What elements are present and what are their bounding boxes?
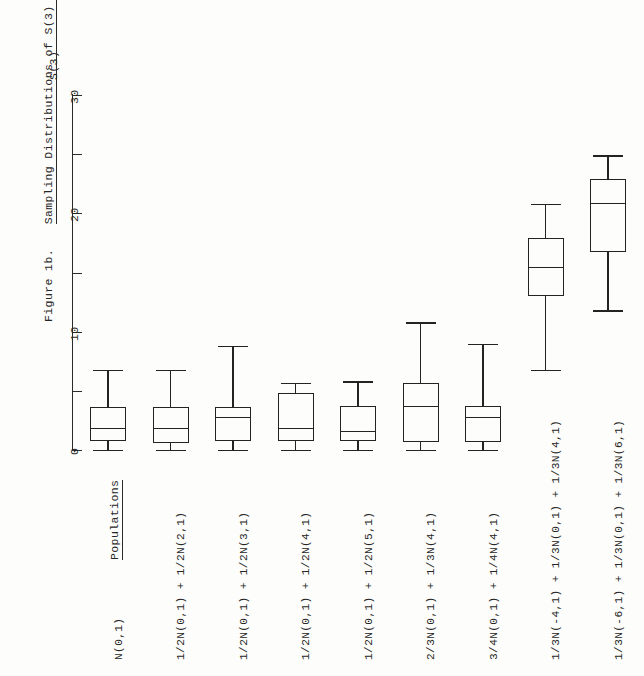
median-line <box>153 428 189 429</box>
boxplot-category-label: 3/4N(0,1) + 1/4N(4,1) <box>488 512 500 660</box>
whisker-lower-line <box>607 252 608 310</box>
whisker-upper-cap <box>593 155 623 156</box>
whisker-upper-cap <box>156 370 186 371</box>
boxplot-category-label: 1/3N(-4,1) + 1/3N(0,1) + 1/3N(4,1) <box>550 420 562 660</box>
box-iqr <box>278 393 314 440</box>
whisker-lower-line <box>357 441 358 450</box>
median-line <box>215 417 251 418</box>
whisker-upper-cap <box>343 381 373 382</box>
boxplot-area: N(0,1)1/2N(0,1) + 1/2N(2,1)1/2N(0,1) + 1… <box>0 0 644 676</box>
boxplot-category-label: 1/3N(-6,1) + 1/3N(0,1) + 1/3N(6,1) <box>613 420 625 660</box>
box-iqr <box>340 406 376 440</box>
median-line <box>590 203 626 204</box>
whisker-upper-cap <box>531 204 561 205</box>
whisker-lower-cap <box>406 450 436 451</box>
whisker-upper-line <box>482 344 483 407</box>
whisker-lower-cap <box>531 370 561 371</box>
whisker-upper-line <box>420 322 421 382</box>
boxplot-category-label: 1/2N(0,1) + 1/2N(4,1) <box>300 512 312 660</box>
whisker-upper-cap <box>468 344 498 345</box>
whisker-upper-line <box>545 204 546 238</box>
whisker-upper-cap <box>93 370 123 371</box>
box-iqr <box>403 383 439 442</box>
boxplot-category-label: 1/2N(0,1) + 1/2N(2,1) <box>175 512 187 660</box>
whisker-upper-line <box>295 383 296 394</box>
whisker-lower-line <box>232 441 233 450</box>
boxplot-category-label: 1/2N(0,1) + 1/2N(5,1) <box>363 512 375 660</box>
whisker-lower-cap <box>593 310 623 311</box>
box-iqr <box>465 406 501 441</box>
median-line <box>465 417 501 418</box>
whisker-lower-line <box>107 441 108 450</box>
median-line <box>90 428 126 429</box>
whisker-lower-line <box>482 442 483 450</box>
whisker-lower-cap <box>281 450 311 451</box>
whisker-upper-cap <box>281 383 311 384</box>
whisker-lower-line <box>545 296 546 369</box>
whisker-lower-cap <box>343 450 373 451</box>
whisker-lower-cap <box>218 450 248 451</box>
whisker-lower-cap <box>93 450 123 451</box>
median-line <box>340 431 376 432</box>
whisker-lower-line <box>170 443 171 450</box>
boxplot-category-label: N(0,1) <box>113 618 125 660</box>
whisker-upper-line <box>607 155 608 179</box>
median-line <box>528 267 564 268</box>
median-line <box>278 428 314 429</box>
whisker-upper-cap <box>218 346 248 347</box>
boxplot-category-label: 2/3N(0,1) + 1/3N(4,1) <box>425 512 437 660</box>
whisker-upper-line <box>170 370 171 408</box>
whisker-upper-line <box>107 370 108 408</box>
whisker-upper-line <box>232 346 233 408</box>
whisker-lower-line <box>420 442 421 450</box>
boxplot-category-label: 1/2N(0,1) + 1/2N(3,1) <box>238 512 250 660</box>
whisker-upper-line <box>357 381 358 406</box>
whisker-upper-cap <box>406 322 436 323</box>
box-iqr <box>590 179 626 252</box>
whisker-lower-cap <box>468 450 498 451</box>
box-iqr <box>90 407 126 440</box>
whisker-lower-cap <box>156 450 186 451</box>
median-line <box>403 406 439 407</box>
whisker-lower-line <box>295 441 296 450</box>
box-iqr <box>215 407 251 440</box>
box-iqr <box>153 407 189 442</box>
